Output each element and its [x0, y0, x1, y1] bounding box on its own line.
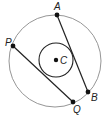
concentric-circles-diagram: C A B P Q [0, 0, 110, 116]
label-c: C [60, 55, 68, 66]
label-p: P [5, 37, 12, 48]
point-b [86, 90, 91, 95]
chord-ab [57, 15, 88, 92]
label-b: B [91, 92, 98, 103]
center-point-c [54, 58, 58, 62]
point-a [55, 13, 60, 18]
label-a: A [53, 1, 61, 12]
label-q: Q [73, 104, 81, 115]
